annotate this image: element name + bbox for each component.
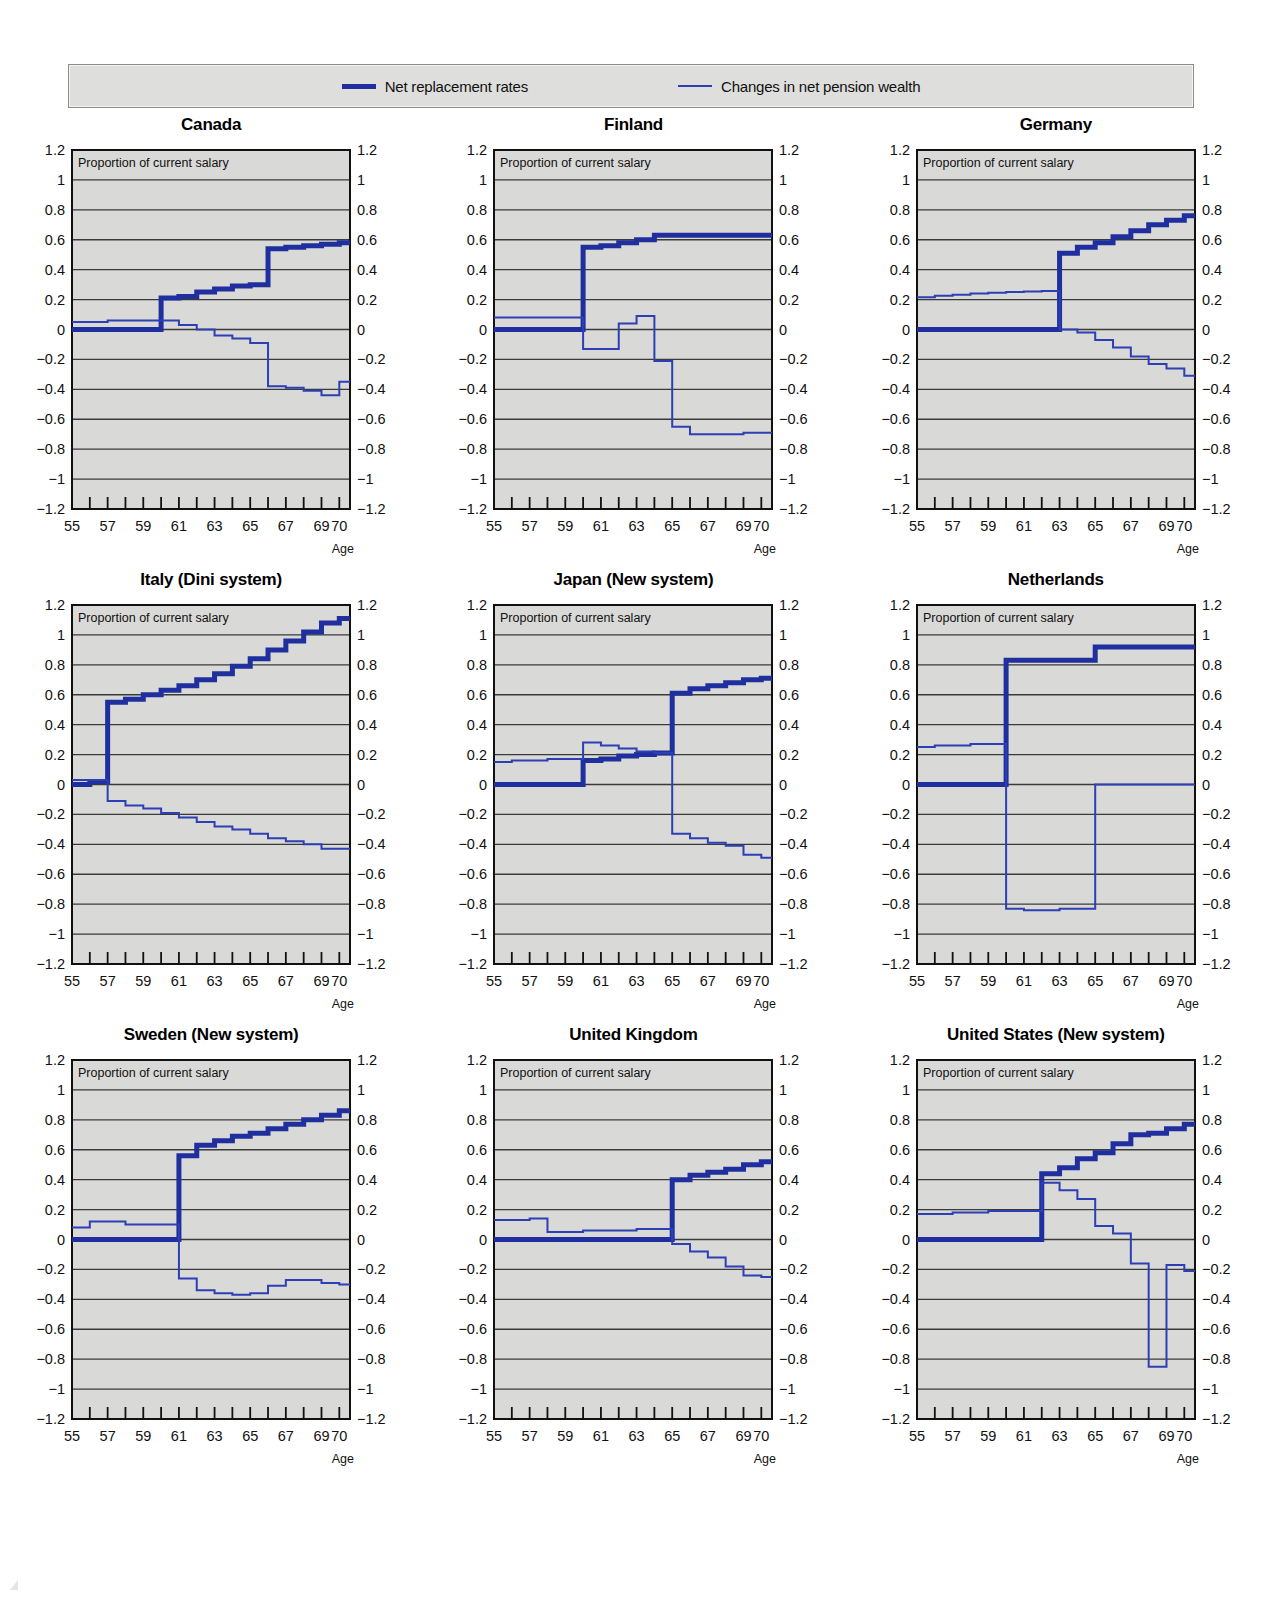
y-axis-tick-label-right: −1 (1202, 1381, 1219, 1397)
plot-annotation-proportion-of-current-salary: Proportion of current salary (500, 1066, 652, 1080)
y-axis-tick-label-right: 1.2 (779, 1052, 799, 1068)
y-axis-tick-label-left: 1.2 (45, 142, 65, 158)
y-axis-tick-label-left: −0.4 (37, 1291, 66, 1307)
y-axis-tick-label-right: 0.8 (1202, 202, 1222, 218)
y-axis-tick-label-right: 1.2 (779, 597, 799, 613)
y-axis-tick-label-left: 0.6 (467, 1142, 487, 1158)
y-axis-tick-label-right: 1.2 (1202, 597, 1222, 613)
y-axis-tick-label-right: −0.8 (1202, 441, 1231, 457)
y-axis-tick-label-right: −1.2 (1202, 1411, 1231, 1427)
chart-plot: 1.21.2110.80.80.60.60.40.40.20.200−0.2−0… (855, 593, 1257, 1018)
y-axis-tick-label-left: 1 (479, 627, 487, 643)
y-axis-tick-label-right: 0.8 (779, 1112, 799, 1128)
y-axis-tick-label-right: −0.6 (1202, 866, 1231, 882)
y-axis-tick-label-right: −0.6 (779, 866, 808, 882)
chart-title: Japan (New system) (422, 567, 844, 593)
x-axis-tick-label: 70 (754, 1428, 770, 1444)
y-axis-tick-label-left: −1 (49, 926, 66, 942)
x-axis-label-age: Age (1177, 542, 1199, 556)
x-axis-tick-label: 63 (1051, 973, 1067, 989)
x-axis-tick-label: 63 (629, 973, 645, 989)
y-axis-tick-label-left: 1.2 (890, 597, 910, 613)
x-axis-tick-label: 65 (665, 1428, 681, 1444)
y-axis-tick-label-right: 0.8 (779, 202, 799, 218)
y-axis-tick-label-left: −0.6 (459, 411, 488, 427)
y-axis-tick-label-right: −0.4 (1202, 1291, 1231, 1307)
y-axis-tick-label-left: −0.8 (37, 1351, 66, 1367)
legend-swatch-thick-line (342, 84, 376, 89)
y-axis-tick-label-right: 0.2 (779, 1202, 799, 1218)
y-axis-tick-label-right: 0.8 (779, 657, 799, 673)
chart-plot: 1.21.2110.80.80.60.60.40.40.20.200−0.2−0… (10, 1048, 412, 1473)
y-axis-tick-label-left: −0.8 (881, 896, 910, 912)
y-axis-tick-label-right: −0.6 (1202, 411, 1231, 427)
y-axis-tick-label-right: 0.2 (779, 747, 799, 763)
y-axis-tick-label-left: 0 (57, 1232, 65, 1248)
y-axis-tick-label-right: 0 (357, 322, 365, 338)
chart-title: United States (New system) (845, 1022, 1267, 1048)
y-axis-tick-label-left: 0.4 (45, 717, 65, 733)
x-axis-tick-label: 70 (1176, 973, 1192, 989)
x-axis-label-age: Age (332, 997, 354, 1011)
y-axis-tick-label-right: −0.8 (357, 1351, 386, 1367)
y-axis-tick-label-left: 0.2 (45, 747, 65, 763)
y-axis-tick-label-right: −1 (779, 926, 796, 942)
y-axis-tick-label-left: 0.6 (890, 1142, 910, 1158)
y-axis-tick-label-right: 0.2 (779, 292, 799, 308)
y-axis-tick-label-right: −0.4 (1202, 381, 1231, 397)
y-axis-tick-label-left: 0.2 (890, 292, 910, 308)
y-axis-tick-label-right: 0.8 (1202, 657, 1222, 673)
y-axis-tick-label-left: 0.8 (45, 202, 65, 218)
x-axis-tick-label: 67 (700, 518, 716, 534)
y-axis-tick-label-right: 0 (357, 1232, 365, 1248)
y-axis-tick-label-right: −0.2 (1202, 351, 1231, 367)
x-axis-tick-label: 55 (64, 973, 80, 989)
y-axis-tick-label-left: −0.6 (459, 866, 488, 882)
y-axis-tick-label-left: −0.2 (459, 351, 488, 367)
y-axis-tick-label-left: 1.2 (467, 1052, 487, 1068)
y-axis-tick-label-left: 0.2 (467, 292, 487, 308)
chart-plot: 1.21.2110.80.80.60.60.40.40.20.200−0.2−0… (432, 593, 834, 1018)
y-axis-tick-label-right: 1.2 (779, 142, 799, 158)
y-axis-tick-label-right: −0.6 (357, 866, 386, 882)
y-axis-tick-label-left: −0.2 (881, 1261, 910, 1277)
chart-panel: United States (New system)1.21.2110.80.8… (845, 1022, 1267, 1477)
y-axis-tick-label-right: −0.2 (779, 806, 808, 822)
y-axis-tick-label-right: −0.6 (357, 411, 386, 427)
y-axis-tick-label-left: −1.2 (881, 501, 910, 517)
y-axis-tick-label-left: −1.2 (459, 956, 488, 972)
x-axis-label-age: Age (754, 1452, 776, 1466)
y-axis-tick-label-right: −0.8 (1202, 1351, 1231, 1367)
y-axis-tick-label-right: −0.4 (779, 836, 808, 852)
y-axis-tick-label-left: 0.4 (467, 717, 487, 733)
x-axis-label-age: Age (332, 542, 354, 556)
y-axis-tick-label-left: −0.2 (37, 351, 66, 367)
chart-panel: Netherlands1.21.2110.80.80.60.60.40.40.2… (845, 567, 1267, 1022)
y-axis-tick-label-left: −1.2 (37, 501, 66, 517)
y-axis-tick-label-left: −0.6 (459, 1321, 488, 1337)
y-axis-tick-label-right: 0.6 (357, 687, 377, 703)
y-axis-tick-label-left: −0.8 (37, 441, 66, 457)
chart-title: Sweden (New system) (0, 1022, 422, 1048)
x-axis-tick-label: 65 (242, 1428, 258, 1444)
y-axis-tick-label-right: 0 (1202, 1232, 1210, 1248)
y-axis-tick-label-left: 0.8 (45, 1112, 65, 1128)
y-axis-tick-label-left: 0.2 (45, 1202, 65, 1218)
x-axis-tick-label: 67 (1123, 1428, 1139, 1444)
y-axis-tick-label-left: 0.4 (467, 1172, 487, 1188)
x-axis-tick-label: 59 (558, 518, 574, 534)
y-axis-tick-label-left: −0.2 (881, 806, 910, 822)
y-axis-tick-label-right: 0.4 (1202, 717, 1222, 733)
y-axis-tick-label-right: 0.6 (357, 232, 377, 248)
x-axis-tick-label: 70 (1176, 518, 1192, 534)
y-axis-tick-label-left: 1 (57, 627, 65, 643)
y-axis-tick-label-right: 0.6 (779, 232, 799, 248)
x-axis-tick-label: 69 (736, 973, 752, 989)
x-axis-tick-label: 55 (486, 518, 502, 534)
y-axis-tick-label-left: −1.2 (37, 956, 66, 972)
y-axis-tick-label-left: −0.8 (459, 441, 488, 457)
y-axis-tick-label-left: 1 (902, 627, 910, 643)
y-axis-tick-label-right: 0.6 (357, 1142, 377, 1158)
y-axis-tick-label-right: −0.8 (779, 896, 808, 912)
x-axis-tick-label: 69 (314, 518, 330, 534)
